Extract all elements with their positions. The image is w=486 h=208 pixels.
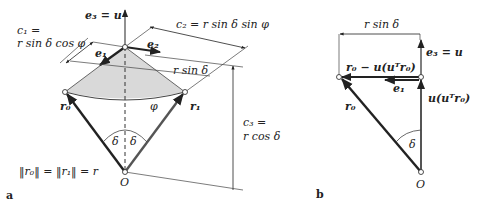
label-r-sin-delta-b: r sin δ (364, 18, 399, 31)
label-e1: e₁ (95, 47, 107, 60)
rotation-geometry-figure: e₃ = u c₁ = r sin δ cos φ c₂ = r sin δ s… (0, 0, 486, 208)
r0-point (63, 90, 68, 95)
label-e3-eq-u-b: e₃ = u (426, 46, 463, 59)
label-r1: r₁ (190, 100, 201, 113)
label-projection: r₀ − u(uᵀr₀) (346, 61, 416, 74)
panel-label-a: a (6, 189, 13, 202)
r0-tip-point (337, 75, 342, 80)
r0-vector-b (342, 79, 421, 172)
label-c3-line2: r cos δ (243, 130, 281, 143)
label-phi: φ (150, 100, 158, 113)
label-delta-left: δ (112, 135, 119, 148)
origin-point (123, 170, 128, 175)
label-c1-line2: r sin δ cos φ (17, 37, 86, 50)
label-delta-b: δ (409, 138, 416, 151)
axis-point (419, 75, 424, 80)
r1-point (183, 90, 188, 95)
apex-point (123, 45, 128, 50)
label-e3-eq-u: e₃ = u (85, 9, 122, 22)
label-delta-right: δ (130, 135, 137, 148)
label-origin-a: O (120, 176, 129, 189)
origin-point-b (419, 170, 424, 175)
label-origin-b: O (416, 178, 425, 191)
panel-label-b: b (316, 188, 324, 201)
label-c2: c₂ = r sin δ sin φ (176, 18, 269, 31)
panel-b: r sin δ e₃ = u r₀ − u(uᵀr₀) e₁ u(uᵀr₀) r… (316, 18, 470, 201)
label-r0: r₀ (60, 100, 71, 113)
label-c1-line1: c₁ = (17, 24, 40, 37)
r0-vector (67, 94, 125, 172)
label-r0-b: r₀ (345, 100, 356, 113)
label-c3-line1: c₃ = (243, 116, 266, 129)
label-e2: e₂ (147, 38, 159, 51)
label-r-sin-delta: r sin δ (173, 64, 208, 77)
label-u-component: u(uᵀr₀) (428, 92, 470, 105)
label-e1-b: e₁ (393, 82, 405, 95)
panel-a: e₃ = u c₁ = r sin δ cos φ c₂ = r sin δ s… (6, 9, 281, 202)
label-norm-equation: ‖r₀‖ = ‖r₁‖ = r (19, 165, 99, 179)
